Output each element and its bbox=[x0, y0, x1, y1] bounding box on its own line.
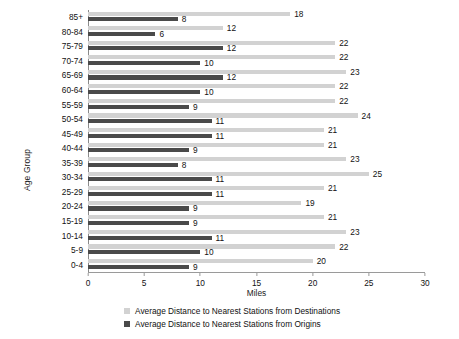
bar-origins: 10 bbox=[88, 90, 200, 94]
bar-value-label: 9 bbox=[193, 102, 198, 112]
x-tick: 5 bbox=[142, 273, 147, 288]
bar-value-label: 10 bbox=[204, 58, 213, 68]
bar-origins: 9 bbox=[88, 265, 189, 269]
bar-destinations: 23 bbox=[88, 157, 346, 161]
category-label: 70-74 bbox=[62, 56, 83, 66]
x-tick-label: 30 bbox=[420, 278, 429, 288]
bar-group: 45-492111 bbox=[88, 126, 425, 141]
bar-group: 50-542411 bbox=[88, 112, 425, 127]
bar-destinations: 18 bbox=[88, 12, 290, 16]
chart-legend: Average Distance to Nearest Stations fro… bbox=[124, 306, 340, 329]
bar-origins: 11 bbox=[88, 236, 212, 240]
bar-value-label: 21 bbox=[328, 125, 337, 135]
bar-group: 80-84126 bbox=[88, 25, 425, 40]
bar-group: 55-59229 bbox=[88, 97, 425, 112]
bar-group: 65-692312 bbox=[88, 68, 425, 83]
bar-group: 30-342511 bbox=[88, 170, 425, 185]
bar-value-label: 23 bbox=[350, 154, 359, 164]
bar-destinations: 22 bbox=[88, 99, 335, 103]
bar-value-label: 25 bbox=[373, 169, 382, 179]
category-label: 50-54 bbox=[62, 114, 83, 124]
bar-destinations: 12 bbox=[88, 26, 223, 30]
bar-value-label: 23 bbox=[350, 227, 359, 237]
bar-destinations: 21 bbox=[88, 215, 324, 219]
bar-value-label: 10 bbox=[204, 87, 213, 97]
x-tick-label: 5 bbox=[142, 278, 147, 288]
bar-value-label: 19 bbox=[305, 198, 314, 208]
bar-origins: 11 bbox=[88, 119, 212, 123]
bar-value-label: 11 bbox=[216, 174, 225, 184]
bar-value-label: 9 bbox=[193, 218, 198, 228]
bar-group: 10-142311 bbox=[88, 228, 425, 243]
bar-value-label: 23 bbox=[350, 67, 359, 77]
x-axis-title: Miles bbox=[88, 288, 425, 298]
bar-value-label: 11 bbox=[216, 233, 225, 243]
bar-destinations: 21 bbox=[88, 128, 324, 132]
x-tick-label: 20 bbox=[308, 278, 317, 288]
x-tick-label: 10 bbox=[196, 278, 205, 288]
bar-value-label: 12 bbox=[227, 72, 236, 82]
category-label: 85+ bbox=[69, 12, 83, 22]
x-tick: 10 bbox=[196, 273, 205, 288]
bar-origins: 10 bbox=[88, 61, 200, 65]
category-label: 5-9 bbox=[71, 245, 83, 255]
bar-destinations: 22 bbox=[88, 41, 335, 45]
bar-value-label: 21 bbox=[328, 140, 337, 150]
bar-value-label: 22 bbox=[339, 242, 348, 252]
bar-group: 15-19219 bbox=[88, 214, 425, 229]
bar-origins: 9 bbox=[88, 206, 189, 210]
bar-origins: 12 bbox=[88, 46, 223, 50]
x-tick-mark bbox=[424, 273, 425, 276]
bar-group: 20-24199 bbox=[88, 199, 425, 214]
category-label: 75-79 bbox=[62, 41, 83, 51]
legend-label: Average Distance to Nearest Stations fro… bbox=[135, 319, 321, 329]
x-tick: 25 bbox=[364, 273, 373, 288]
legend-label: Average Distance to Nearest Stations fro… bbox=[135, 306, 340, 316]
category-label: 0-4 bbox=[71, 260, 83, 270]
bar-group: 75-792212 bbox=[88, 39, 425, 54]
bar-chart: Age Group 85+18880-8412675-79221270-7422… bbox=[0, 0, 459, 339]
bar-value-label: 8 bbox=[182, 14, 187, 24]
bar-origins: 8 bbox=[88, 163, 178, 167]
category-label: 45-49 bbox=[62, 129, 83, 139]
bar-origins: 6 bbox=[88, 32, 155, 36]
legend-item[interactable]: Average Distance to Nearest Stations fro… bbox=[124, 319, 340, 329]
legend-swatch-icon bbox=[124, 308, 130, 314]
bar-group: 60-642210 bbox=[88, 83, 425, 98]
bar-origins: 12 bbox=[88, 75, 223, 79]
bar-value-label: 9 bbox=[193, 203, 198, 213]
x-tick-label: 25 bbox=[364, 278, 373, 288]
bar-value-label: 24 bbox=[362, 111, 371, 121]
bar-value-label: 9 bbox=[193, 145, 198, 155]
bar-origins: 9 bbox=[88, 221, 189, 225]
bar-destinations: 20 bbox=[88, 259, 313, 263]
category-label: 35-39 bbox=[62, 158, 83, 168]
bar-destinations: 21 bbox=[88, 186, 324, 190]
bar-group: 0-4209 bbox=[88, 257, 425, 272]
bar-group: 85+188 bbox=[88, 10, 425, 25]
x-tick-mark bbox=[368, 273, 369, 276]
bar-value-label: 21 bbox=[328, 212, 337, 222]
bar-value-label: 21 bbox=[328, 183, 337, 193]
bar-value-label: 22 bbox=[339, 96, 348, 106]
bar-rows: 85+18880-8412675-79221270-74221065-69231… bbox=[88, 10, 425, 272]
bar-value-label: 22 bbox=[339, 38, 348, 48]
bar-origins: 8 bbox=[88, 17, 178, 21]
legend-item[interactable]: Average Distance to Nearest Stations fro… bbox=[124, 306, 340, 316]
x-tick: 15 bbox=[252, 273, 261, 288]
bar-group: 40-44219 bbox=[88, 141, 425, 156]
bar-origins: 11 bbox=[88, 192, 212, 196]
x-tick-mark bbox=[312, 273, 313, 276]
category-label: 20-24 bbox=[62, 201, 83, 211]
x-tick-mark bbox=[200, 273, 201, 276]
category-label: 55-59 bbox=[62, 100, 83, 110]
bar-value-label: 11 bbox=[216, 131, 225, 141]
category-label: 15-19 bbox=[62, 216, 83, 226]
bar-value-label: 22 bbox=[339, 81, 348, 91]
bar-value-label: 10 bbox=[204, 247, 213, 257]
bar-value-label: 6 bbox=[159, 29, 164, 39]
bar-destinations: 21 bbox=[88, 143, 324, 147]
plot-area: 85+18880-8412675-79221270-74221065-69231… bbox=[88, 10, 425, 272]
bar-group: 25-292111 bbox=[88, 185, 425, 200]
bar-origins: 9 bbox=[88, 148, 189, 152]
